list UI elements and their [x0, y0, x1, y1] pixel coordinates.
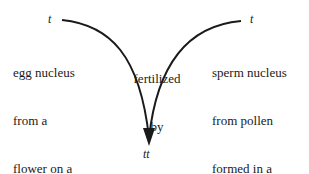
right-parent-line: from pollen: [212, 113, 287, 129]
right-genotype-label: t: [250, 12, 253, 26]
right-parent-line: formed in a: [212, 161, 287, 174]
connector-line: by: [120, 119, 194, 135]
offspring-genotype-label: tt: [143, 147, 150, 161]
left-genotype-label: t: [48, 12, 51, 26]
left-parent-line: flower on a: [13, 161, 75, 174]
left-parent-line: egg nucleus: [13, 65, 75, 81]
left-parent-description: egg nucleus from a flower on a short pla…: [13, 33, 75, 174]
connector-label: fertilized by: [120, 39, 194, 167]
right-parent-line: sperm nucleus: [212, 65, 287, 81]
left-parent-line: from a: [13, 113, 75, 129]
offspring-description: seed that will grow into a short plant: [89, 162, 188, 174]
fertilization-diagram: t egg nucleus from a flower on a short p…: [0, 0, 309, 174]
connector-line: fertilized: [120, 71, 194, 87]
right-parent-description: sperm nucleus from pollen formed in a fl…: [212, 33, 287, 174]
